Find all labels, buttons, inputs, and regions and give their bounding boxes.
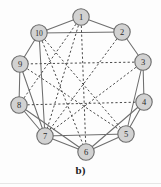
dashed-edge-1-7 xyxy=(45,17,81,136)
graph-node-2[interactable]: 2 xyxy=(114,24,130,40)
figure-caption: b) xyxy=(0,164,161,176)
node-circle-10[interactable] xyxy=(31,25,47,41)
node-circle-8[interactable] xyxy=(11,97,27,113)
bottom-divider xyxy=(0,183,161,184)
graph-node-8[interactable]: 8 xyxy=(11,97,27,113)
node-circle-7[interactable] xyxy=(37,128,53,144)
graph-node-7[interactable]: 7 xyxy=(37,128,53,144)
node-circle-4[interactable] xyxy=(136,94,152,110)
figure-container: 12345678910 b) xyxy=(0,0,161,187)
dashed-edge-1-8 xyxy=(19,17,81,105)
node-circle-6[interactable] xyxy=(78,144,94,160)
graph-node-3[interactable]: 3 xyxy=(135,54,151,70)
solid-edge-10-2 xyxy=(39,32,122,33)
dashed-edge-3-9 xyxy=(20,62,143,64)
dashed-edge-9-5 xyxy=(20,64,126,134)
graph-node-9[interactable]: 9 xyxy=(12,56,28,72)
graph-node-6[interactable]: 6 xyxy=(78,144,94,160)
node-circle-2[interactable] xyxy=(114,24,130,40)
graph-node-5[interactable]: 5 xyxy=(118,126,134,142)
graph-node-4[interactable]: 4 xyxy=(136,94,152,110)
node-circle-5[interactable] xyxy=(118,126,134,142)
graph-node-10[interactable]: 10 xyxy=(31,25,47,41)
circular-graph-diagram: 12345678910 xyxy=(0,0,161,170)
solid-edge-4-6 xyxy=(86,102,144,152)
node-circle-3[interactable] xyxy=(135,54,151,70)
node-circle-9[interactable] xyxy=(12,56,28,72)
graph-node-1[interactable]: 1 xyxy=(73,9,89,25)
node-circle-1[interactable] xyxy=(73,9,89,25)
dashed-edge-4-8 xyxy=(19,102,144,105)
solid-edge-7-5 xyxy=(45,134,126,136)
